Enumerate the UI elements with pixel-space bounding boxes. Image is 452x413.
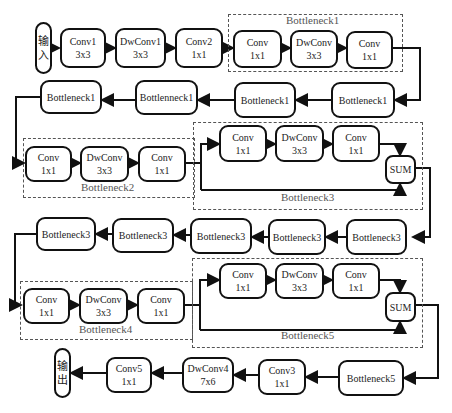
b5-sum-node: SUM [385,292,416,322]
bottleneck3-node-4: Bottleneck3 [112,218,174,253]
bottleneck2-group-label: Bottleneck2 [81,181,134,193]
conv5-node: Conv51x1 [106,357,152,393]
bottleneck5-group-label: Bottleneck5 [281,329,334,341]
output-node: 输 出 [54,348,71,398]
conv1-node: Conv13x3 [60,28,106,68]
b3-sum-node: SUM [385,155,416,184]
conv2-node: Conv21x1 [175,28,223,68]
b4-dwconv-node: DwConv3x3 [79,288,128,324]
b4-conv-b-node: Conv1x1 [137,288,185,324]
bottleneck1-node-4: Bottleneck1 [40,80,102,114]
bottleneck3-node-5: Bottleneck3 [36,217,96,251]
bottleneck4-group-label: Bottleneck4 [79,323,132,335]
bottleneck1-group-label: Bottleneck1 [286,14,339,26]
b3-conv-a-node: Conv1x1 [219,125,267,162]
dwconv1-node: DwConv13x3 [115,28,166,68]
b2-conv-a-node: Conv1x1 [25,146,72,182]
b5-conv-b-node: Conv1x1 [332,263,380,299]
bottleneck3-node-1: Bottleneck3 [346,219,407,255]
b5-dwconv-node: DwConv3x3 [275,263,324,299]
input-node: 输 入 [35,22,52,74]
bottleneck1-node-1: Bottleneck1 [331,82,395,118]
b1-conv-b-node: Conv1x1 [346,31,393,69]
b2-conv-b-node: Conv1x1 [138,146,186,182]
b1-conv-a-node: Conv1x1 [233,30,282,68]
b3-conv-b-node: Conv1x1 [332,125,380,162]
bottleneck5-node: Bottleneck5 [338,360,404,396]
conv3-node: Conv31x1 [258,359,306,395]
bottleneck3-node-2: Bottleneck3 [268,219,326,255]
b3-dwconv-node: DwConv3x3 [275,125,324,162]
bottleneck1-node-2: Bottleneck1 [234,82,296,118]
dwconv4-node: DwConv47x6 [182,357,234,393]
b1-dwconv-node: DwConv3x3 [290,30,338,68]
bottleneck1-node-3: Bottlenneck1 [135,80,198,115]
b4-conv-a-node: Conv1x1 [23,288,70,324]
bottleneck3-node-3: Bottleneck3 [190,218,252,254]
b5-conv-a-node: Conv1x1 [219,263,267,299]
b2-dwconv-node: DwConv3x3 [80,146,129,182]
mobilenet-bottleneck-diagram: Bottleneck1 Bottleneck2 Bottleneck3 Bott… [0,0,452,413]
bottleneck3-group-label: Bottleneck3 [281,191,334,203]
